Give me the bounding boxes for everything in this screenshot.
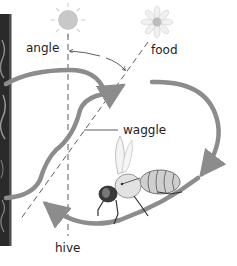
angle-indicator — [70, 51, 125, 70]
sun-icon — [51, 3, 85, 37]
flower-icon — [141, 6, 173, 38]
honeycomb-photo-strip — [0, 14, 12, 246]
waggle-label: waggle — [123, 124, 166, 136]
food-label: food — [151, 44, 178, 56]
angle-label: angle — [26, 42, 59, 54]
diagram-graphics — [0, 0, 237, 266]
hive-label: hive — [55, 242, 80, 254]
waggle-dance-diagram: angle food waggle hive — [0, 0, 237, 266]
